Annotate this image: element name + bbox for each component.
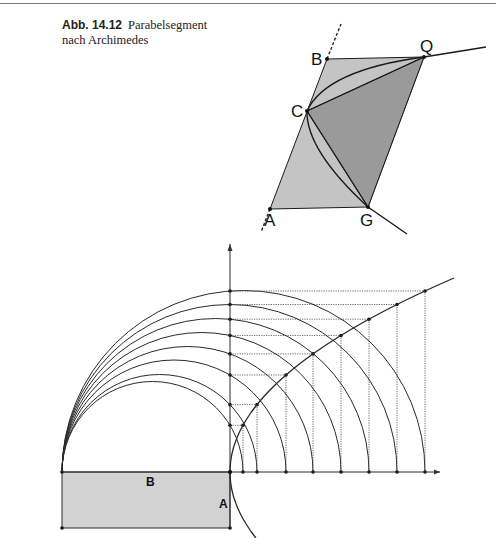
- parabola-segment-figure: BQCAG: [261, 24, 486, 234]
- label-g: G: [360, 211, 373, 230]
- y-axis-arrow-icon: [228, 244, 233, 251]
- label-q: Q: [420, 37, 433, 56]
- point-c: [305, 109, 309, 113]
- origin-point: [228, 470, 232, 474]
- parabola-construction-figure: BA: [60, 244, 454, 538]
- label-a: A: [264, 211, 276, 230]
- construction-arc-1: [62, 375, 257, 472]
- tangent-dash-top: [327, 24, 341, 59]
- label-c: C: [291, 102, 303, 121]
- diagram-canvas: BQCAG BA: [0, 0, 496, 538]
- x-axis-arrow-icon: [434, 470, 440, 475]
- construction-arc-4: [62, 333, 341, 473]
- label-a: A: [219, 497, 228, 511]
- label-b: B: [146, 475, 155, 489]
- rect-corner-2: [60, 526, 64, 530]
- point-g: [366, 205, 370, 209]
- parabola-curve: [230, 278, 454, 538]
- construction-arc-3: [62, 347, 313, 473]
- label-b: B: [311, 50, 322, 69]
- construction-arc-5: [62, 319, 369, 473]
- point-b: [325, 57, 329, 61]
- construction-arc-0: [62, 382, 243, 472]
